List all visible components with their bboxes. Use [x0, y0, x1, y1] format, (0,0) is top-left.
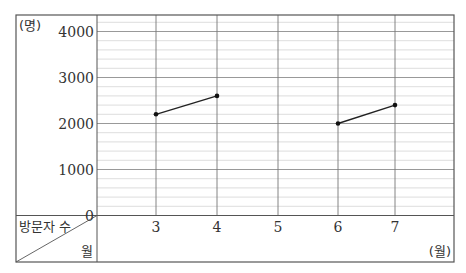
line-chart: 01000200030004000(명)방문자 수월34567(월) — [0, 0, 466, 273]
y-tick-label: 1000 — [58, 162, 94, 178]
y-tick-label: 3000 — [58, 70, 94, 86]
y-tick-label: 4000 — [58, 24, 94, 40]
y-tick-label: 0 — [85, 208, 94, 224]
x-tick-label: 6 — [334, 219, 343, 235]
y-tick-label: 2000 — [58, 116, 94, 132]
data-point — [393, 103, 398, 108]
data-point — [154, 112, 159, 117]
data-point — [336, 121, 341, 126]
x-tick-label: 3 — [152, 219, 161, 235]
x-unit-label: (월) — [429, 244, 451, 259]
corner-label-visitors: 방문자 수 — [19, 219, 71, 234]
x-tick-label: 5 — [274, 219, 283, 235]
y-unit-label: (명) — [19, 18, 41, 33]
corner-label-month: 월 — [81, 244, 93, 259]
data-point — [215, 94, 220, 99]
chart-frame — [16, 15, 454, 262]
x-tick-label: 7 — [391, 219, 400, 235]
x-tick-label: 4 — [213, 219, 222, 235]
